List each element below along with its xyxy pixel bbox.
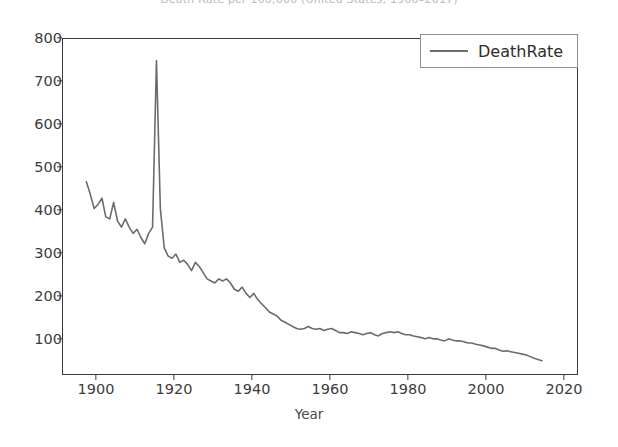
x-tick-mark <box>485 375 486 380</box>
chart-title-clipped: Death Rate per 100,000 (United States, 1… <box>0 0 618 7</box>
legend: DeathRate <box>420 34 578 68</box>
x-tick-label: 1940 <box>234 381 271 397</box>
x-tick-label: 2020 <box>546 381 583 397</box>
series-line-deathrate <box>86 61 542 361</box>
x-tick-mark <box>563 375 564 380</box>
plot-area <box>62 38 578 375</box>
x-tick-label: 1920 <box>156 381 193 397</box>
legend-label: DeathRate <box>478 42 563 61</box>
x-axis-label: Year <box>0 406 618 422</box>
x-tick-label: 2000 <box>468 381 505 397</box>
x-tick-mark <box>407 375 408 380</box>
x-tick-label: 1960 <box>312 381 349 397</box>
x-tick-mark <box>251 375 252 380</box>
x-tick-label: 1900 <box>78 381 115 397</box>
figure-canvas: Death Rate per 100,000 (United States, 1… <box>0 0 618 447</box>
x-tick-mark <box>329 375 330 380</box>
x-tick-mark <box>95 375 96 380</box>
plot-svg <box>63 39 577 374</box>
legend-line-swatch <box>430 50 468 52</box>
x-tick-mark <box>173 375 174 380</box>
x-tick-label: 1980 <box>390 381 427 397</box>
